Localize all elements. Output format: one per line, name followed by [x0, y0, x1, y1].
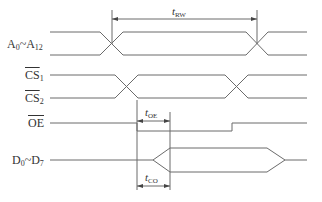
data-bus-waveform — [50, 148, 307, 172]
label-t-oe: tOE — [145, 107, 157, 120]
label-address-bus: A0~A12 — [7, 38, 43, 52]
chip-select-waveforms — [50, 75, 307, 98]
timing-diagram: A0~A12 CS1 CS2 OE D0~D7 tRW tOE tCO — [0, 0, 322, 202]
oe-waveform — [50, 123, 307, 131]
label-cs1: CS1 — [25, 69, 44, 83]
label-t-co: tCO — [145, 172, 158, 185]
label-t-rw: tRW — [172, 6, 186, 19]
label-cs2: CS2 — [25, 92, 44, 106]
address-bus-waveform — [50, 32, 307, 55]
label-data-bus: D0~D7 — [12, 154, 44, 168]
timing-waveforms — [0, 0, 322, 202]
label-oe: OE — [28, 117, 44, 129]
